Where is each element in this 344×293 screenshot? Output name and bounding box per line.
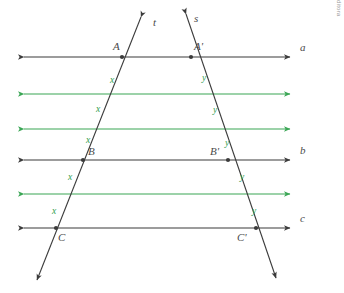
segment-label-y-1: y (201, 73, 207, 83)
image-credit: Banco de imagens/Arquivo da editora (336, 0, 343, 28)
point-B-label: B (88, 145, 95, 157)
line-a-label: a (300, 41, 306, 53)
segment-label-x-1: x (109, 75, 115, 85)
segment-label-x-3: x (85, 135, 91, 145)
point-B1 (226, 158, 230, 162)
line-c-label: c (300, 212, 305, 224)
parallel-lines-group: abc (24, 41, 306, 228)
line-t-label: t (153, 16, 157, 28)
point-A (120, 55, 124, 59)
segment-label-y-4: y (239, 172, 245, 182)
geometry-figure: abc ts AA'BB'CC' xxxxxyyyyy (0, 0, 344, 293)
line-b-label: b (300, 144, 306, 156)
point-B1-label: B' (210, 145, 220, 157)
point-A1 (189, 55, 193, 59)
point-C (54, 226, 58, 230)
point-B (81, 158, 85, 162)
segment-label-y-2: y (212, 105, 218, 115)
point-C-label: C (58, 231, 66, 243)
point-A-label: A (112, 40, 120, 52)
point-C1-label: C' (237, 231, 247, 243)
segment-label-x-4: x (67, 172, 73, 182)
line-s-label: s (194, 12, 198, 24)
segment-label-x-5: x (51, 206, 57, 216)
segment-label-y-5: y (251, 206, 257, 216)
point-A1-label: A' (193, 40, 204, 52)
line-s (186, 14, 276, 278)
point-C1 (254, 226, 258, 230)
segment-label-y-3: y (224, 138, 230, 148)
segment-label-x-2: x (95, 104, 101, 114)
